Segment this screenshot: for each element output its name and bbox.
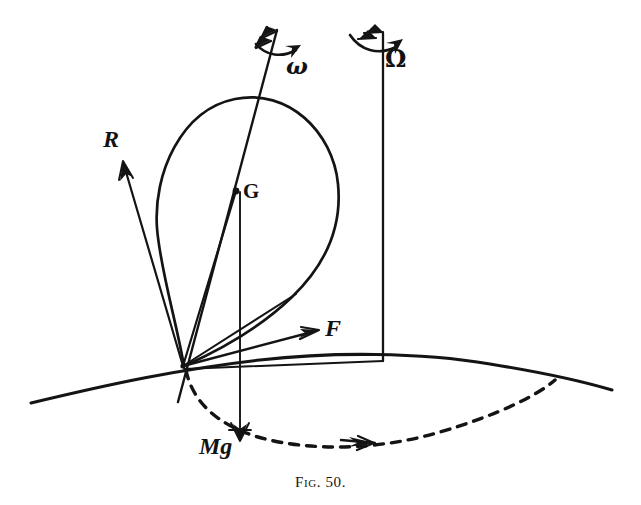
centre-of-mass-point: [233, 188, 240, 195]
reaction-arrow: [119, 161, 183, 366]
figure-stage: ω Ω R G F Mg Fig. 50.: [0, 0, 641, 505]
reaction-label: R: [103, 127, 119, 151]
gyroscope-precession-diagram: [0, 0, 641, 505]
figure-caption-prefix: Fig.: [295, 474, 321, 490]
figure-caption: Fig. 50.: [0, 474, 641, 491]
spin-axis-label: ω: [286, 54, 308, 77]
precession-axis-label: Ω: [385, 47, 406, 71]
centre-of-mass-label: G: [243, 181, 259, 202]
force-label: F: [325, 316, 341, 340]
precession-axis-arrowhead: [358, 24, 383, 39]
pivot-to-centre-of-mass-line: [183, 191, 236, 366]
weight-label: Mg: [199, 434, 232, 458]
ground-curve: [31, 354, 612, 403]
figure-caption-number: 50.: [325, 474, 346, 490]
pivot-point: [180, 363, 185, 368]
